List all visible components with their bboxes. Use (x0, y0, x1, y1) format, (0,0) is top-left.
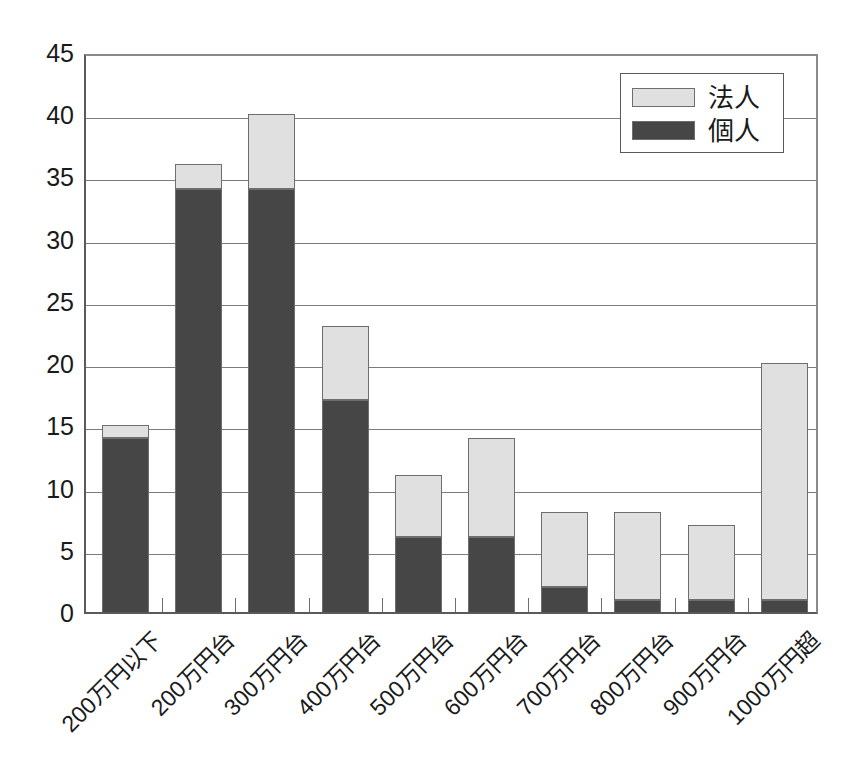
bar-group[interactable] (614, 512, 661, 612)
legend-swatch-corporate (632, 88, 695, 107)
bar-group[interactable] (468, 438, 515, 612)
y-tick-label: 10 (0, 477, 86, 502)
stacked-bar-chart: 454035302520151050 200万円以下200万円台300万円台40… (0, 0, 867, 765)
bar-segment-individual[interactable] (541, 587, 588, 612)
bar-group[interactable] (322, 326, 369, 612)
bar-segment-individual[interactable] (248, 189, 295, 612)
bar-segment-individual[interactable] (322, 400, 369, 612)
x-axis-tick (528, 598, 529, 612)
bar-segment-individual[interactable] (468, 537, 515, 612)
y-tick-label: 20 (0, 352, 86, 377)
x-axis-tick (675, 598, 676, 612)
x-axis-tick (162, 598, 163, 612)
x-axis-tick (748, 598, 749, 612)
bar-group[interactable] (688, 525, 735, 612)
bar-segment-corporate[interactable] (395, 475, 442, 537)
x-axis: 200万円以下200万円台300万円台400万円台500万円台600万円台700… (0, 614, 867, 765)
bar-segment-individual[interactable] (102, 438, 149, 612)
y-tick-label: 30 (0, 228, 86, 253)
y-tick-label: 5 (0, 539, 86, 564)
bar-group[interactable] (761, 363, 808, 612)
bar-segment-corporate[interactable] (102, 425, 149, 437)
y-tick-label: 45 (0, 41, 86, 66)
bar-segment-individual[interactable] (688, 600, 735, 612)
bar-group[interactable] (395, 475, 442, 612)
x-axis-tick (601, 598, 602, 612)
bar-segment-corporate[interactable] (688, 525, 735, 600)
y-tick-label: 15 (0, 414, 86, 439)
x-tick-label: 200万円以下 (0, 628, 166, 765)
bar-segment-individual[interactable] (761, 600, 808, 612)
legend-item-individual: 個人 (621, 114, 783, 147)
x-axis-tick (235, 598, 236, 612)
bar-segment-corporate[interactable] (175, 164, 222, 189)
bar-segment-corporate[interactable] (541, 512, 588, 587)
y-tick-label: 40 (0, 103, 86, 128)
bar-segment-corporate[interactable] (468, 438, 515, 538)
legend: 法人 個人 (620, 73, 784, 153)
bar-segment-corporate[interactable] (248, 114, 295, 189)
y-tick-label: 35 (0, 165, 86, 190)
y-tick-label: 25 (0, 290, 86, 315)
bar-group[interactable] (102, 425, 149, 612)
bar-segment-corporate[interactable] (322, 326, 369, 401)
bar-segment-individual[interactable] (395, 537, 442, 612)
bar-group[interactable] (175, 164, 222, 612)
x-axis-tick (382, 598, 383, 612)
x-axis-tick (455, 598, 456, 612)
legend-label-corporate: 法人 (708, 85, 760, 111)
bar-group[interactable] (541, 512, 588, 612)
x-axis-tick (309, 598, 310, 612)
bar-group[interactable] (248, 114, 295, 612)
bar-segment-individual[interactable] (614, 600, 661, 612)
legend-label-individual: 個人 (708, 118, 760, 144)
bar-segment-corporate[interactable] (761, 363, 808, 599)
bar-segment-corporate[interactable] (614, 512, 661, 599)
legend-item-corporate: 法人 (621, 81, 783, 114)
bar-segment-individual[interactable] (175, 189, 222, 612)
legend-swatch-individual (632, 121, 695, 140)
